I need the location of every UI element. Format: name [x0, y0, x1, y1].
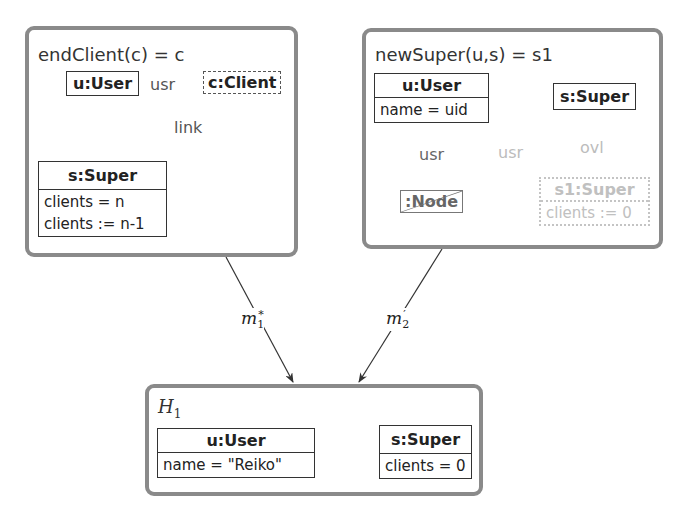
- object-node-negated[interactable]: :Node: [400, 190, 463, 213]
- object-attributes: clients = n clients := n-1: [39, 189, 166, 236]
- object-name: u:User: [158, 429, 314, 452]
- object-attributes: name = "Reiko": [158, 452, 314, 477]
- edge-label-link: link: [174, 118, 202, 137]
- object-s-super[interactable]: s:Super: [553, 83, 636, 110]
- attribute: name = "Reiko": [163, 454, 309, 476]
- object-u-user[interactable]: u:User name = uid: [374, 73, 489, 123]
- morphism-label-m1: m1*: [241, 308, 264, 331]
- object-name: s:Super: [554, 84, 635, 109]
- object-attributes: clients = 0: [380, 453, 471, 478]
- negation-strike-icon: [401, 191, 462, 212]
- rule-title: endClient(c) = c: [38, 44, 184, 65]
- object-attributes: clients := 0: [541, 200, 648, 224]
- object-attributes: name = uid: [375, 97, 488, 122]
- attribute: clients := n-1: [44, 213, 161, 235]
- object-name: s:Super: [380, 426, 471, 453]
- object-c-client[interactable]: c:Client: [203, 71, 281, 94]
- edge-label-usr: usr: [150, 75, 175, 94]
- object-name: s1:Super: [541, 179, 648, 200]
- attribute: clients := 0: [546, 203, 643, 223]
- host-title: H1: [158, 396, 181, 421]
- object-name: u:User: [67, 72, 138, 95]
- edge-label-usr-created: usr: [498, 143, 523, 162]
- edge-label-usr-negated: usr: [419, 145, 444, 164]
- attribute: name = uid: [380, 99, 483, 121]
- object-name: u:User: [375, 74, 488, 97]
- edge-label-ovl: ovl: [580, 138, 604, 157]
- attribute: clients = n: [44, 191, 161, 213]
- object-u-user[interactable]: u:User name = "Reiko": [157, 428, 315, 478]
- object-s-super[interactable]: s:Super clients = 0: [379, 425, 472, 479]
- attribute: clients = 0: [385, 455, 466, 477]
- object-name: c:Client: [204, 72, 280, 93]
- morphism-label-m2: m2′: [386, 308, 406, 331]
- rule-title: newSuper(u,s) = s1: [375, 44, 553, 65]
- object-name: s:Super: [39, 162, 166, 189]
- object-s1-super-created[interactable]: s1:Super clients := 0: [539, 177, 650, 226]
- object-s-super[interactable]: s:Super clients = n clients := n-1: [38, 161, 167, 237]
- object-u-user[interactable]: u:User: [66, 71, 139, 96]
